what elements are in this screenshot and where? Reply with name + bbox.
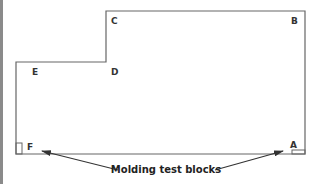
- room-outline: [16, 11, 305, 154]
- label-d: D: [111, 67, 118, 77]
- label-b: B: [291, 16, 298, 26]
- caption-molding-test-blocks: Molding test blocks: [111, 164, 221, 175]
- label-e: E: [32, 67, 38, 77]
- label-c: C: [111, 16, 118, 26]
- test-block-f: [16, 143, 22, 154]
- label-a: A: [290, 140, 297, 150]
- floor-plan-diagram: C B E D F A Molding test blocks: [0, 0, 317, 184]
- label-f: F: [27, 142, 33, 152]
